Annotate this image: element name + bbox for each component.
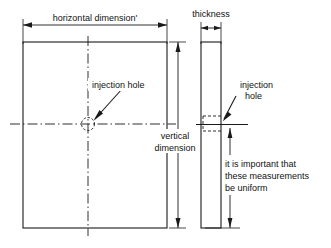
horizontal-dim-arrow-right — [158, 22, 167, 27]
front-view-panel — [23, 42, 167, 228]
vertical-dimension-label-line1: vertical — [161, 131, 190, 141]
vertical-dim-arrow-top — [176, 42, 181, 52]
injection-hole-front-label: injection hole — [92, 80, 145, 90]
note-line-3: be uniform — [225, 183, 268, 193]
horizontal-dim-arrow-left — [23, 22, 32, 27]
note-line-2: these measurements — [225, 171, 310, 181]
thickness-dim-arrow-left — [201, 26, 208, 30]
uniform-dim-arrow-top — [228, 128, 233, 138]
injection-hole-side-label-line2: hole — [245, 91, 262, 101]
horizontal-dimension-label: horizontal dimension' — [53, 13, 138, 23]
vertical-dimension-label-line2: dimension — [154, 143, 195, 153]
injection-hole-side-arrowhead — [223, 112, 232, 122]
thickness-dim-arrow-right — [214, 26, 221, 30]
thickness-label: thickness — [192, 9, 230, 19]
drawing-canvas: horizontal dimension' thickness vertical… — [0, 0, 331, 248]
injection-hole-side-label-line1: injection — [240, 80, 273, 90]
note-line-1: it is important that — [225, 159, 297, 169]
uniform-dim-arrow-bottom — [228, 218, 233, 228]
technical-drawing: horizontal dimension' thickness vertical… — [0, 0, 331, 248]
side-view-panel — [201, 42, 221, 228]
vertical-dim-arrow-bottom — [176, 218, 181, 228]
